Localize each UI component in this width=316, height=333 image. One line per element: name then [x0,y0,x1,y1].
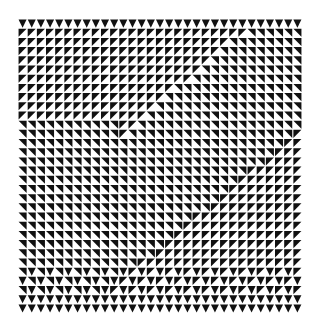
triangle-cell [110,47,118,55]
triangle-cell [101,102,109,110]
triangle-cell [183,176,191,184]
triangle-cell [202,121,210,129]
triangle-cell [275,93,283,101]
triangle-cell [119,249,127,257]
triangle-cell [229,111,237,119]
triangle-cell [83,148,91,156]
triangle-cell [28,93,36,101]
triangle-cell [266,38,274,46]
triangle-cell [266,148,274,156]
triangle-cell [229,93,237,101]
triangle-cell [138,75,146,83]
triangle-cell [275,121,283,129]
triangle-cell [101,139,109,147]
triangle-cell [147,167,155,175]
triangle-cell [156,20,164,28]
triangle-cell [74,47,82,55]
triangle-cell [183,240,191,248]
triangle-cell [101,38,109,46]
triangle-cell [128,130,136,138]
triangle-cell [83,167,91,175]
triangle-cell [293,66,301,74]
triangle-cell [284,20,292,28]
triangle-cell [119,56,127,64]
triangle-cell [193,268,201,276]
triangle-cell [147,121,155,129]
triangle-cell [238,176,246,184]
triangle-cell [165,111,173,119]
triangle-cell [202,102,210,110]
triangle-cell [55,295,63,303]
triangle-cell [202,56,210,64]
triangle-cell [284,203,292,211]
triangle-cell [284,231,292,239]
triangle-cell [229,102,237,110]
triangle-cell [138,203,146,211]
triangle-cell [55,213,63,221]
triangle-cell [64,240,72,248]
triangle-cell [74,148,82,156]
triangle-cell [183,231,191,239]
triangle-cell [183,38,191,46]
triangle-cell [28,148,36,156]
triangle-cell [28,249,36,257]
triangle-cell [46,84,54,92]
triangle-cell [257,176,265,184]
triangle-cell [110,295,118,303]
triangle-cell [110,213,118,221]
triangle-cell [238,277,246,285]
triangle-cell [92,38,100,46]
triangle-cell [83,75,91,83]
triangle-cell [138,194,146,202]
triangle-cell [284,121,292,129]
triangle-cell [211,139,219,147]
triangle-cell [165,47,173,55]
triangle-cell [266,56,274,64]
triangle-cell [156,38,164,46]
triangle-cell [46,93,54,101]
triangle-cell [37,176,45,184]
triangle-cell [147,102,155,110]
triangle-cell [55,185,63,193]
triangle-cell [128,286,136,294]
triangle-cell [46,102,54,110]
triangle-cell [248,222,256,230]
triangle-cell [275,157,283,165]
triangle-cell [220,295,228,303]
triangle-cell [248,29,256,37]
triangle-cell [128,304,136,312]
triangle-cell [220,20,228,28]
triangle-cell [64,102,72,110]
triangle-cell [229,194,237,202]
triangle-cell [293,38,301,46]
triangle-cell [183,130,191,138]
triangle-cell [211,213,219,221]
triangle-cell [147,203,155,211]
triangle-cell [293,286,301,294]
triangle-cell [92,84,100,92]
triangle-cell [174,157,182,165]
triangle-cell [64,38,72,46]
triangle-cell [156,167,164,175]
triangle-cell [19,258,27,266]
triangle-cell [101,231,109,239]
triangle-cell [238,222,246,230]
triangle-cell [156,139,164,147]
triangle-cell [19,286,27,294]
triangle-cell [165,56,173,64]
triangle-cell [211,84,219,92]
triangle-cell [92,121,100,129]
triangle-cell [238,47,246,55]
triangle-cell [119,102,127,110]
triangle-cell [211,56,219,64]
triangle-cell [156,258,164,266]
triangle-cell [257,277,265,285]
triangle-cell [83,130,91,138]
triangle-cell [19,194,27,202]
triangle-cell [202,203,210,211]
triangle-cell [193,66,201,74]
triangle-cell [92,20,100,28]
triangle-cell [101,213,109,221]
triangle-cell [275,277,283,285]
triangle-cell [156,56,164,64]
